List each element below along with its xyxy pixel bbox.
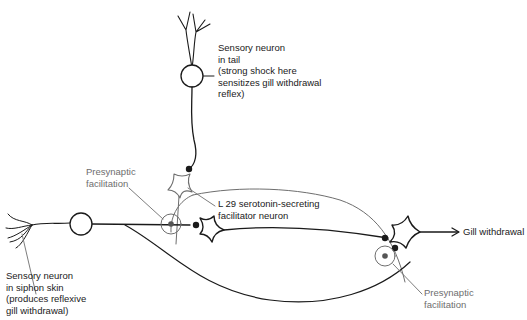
- tail-sensory-soma: [181, 65, 203, 87]
- interneuron-synapse-terminal: [193, 222, 199, 228]
- label-gill-withdrawal: Gill withdrawal: [463, 226, 524, 238]
- tail-sensory-dendrites: [178, 12, 210, 68]
- siphon-sensory-dendrites: [6, 214, 32, 248]
- siphon-sensory-branch-lower: [125, 225, 410, 302]
- motor-synapse-terminal-upper: [382, 235, 388, 241]
- label-presynaptic-facilitation-left: Presynaptic facilitation: [86, 166, 136, 189]
- tail-synapse-terminal: [186, 166, 192, 172]
- label-presynaptic-facilitation-right: Presynaptic facilitation: [424, 287, 474, 310]
- l29-branch-left: [171, 195, 193, 232]
- presyn-terminal-right: [382, 253, 388, 259]
- l29-facilitator-soma: [168, 174, 192, 198]
- siphon-sensory-process: [32, 223, 70, 225]
- l29-axon: [176, 196, 179, 244]
- presyn-terminal-left: [168, 221, 174, 227]
- presyn-left-leader: [129, 188, 163, 219]
- l29-label-leader: [188, 188, 215, 206]
- label-tail-sensory-neuron: Sensory neuron in tail (strong shock her…: [218, 42, 321, 100]
- siphon-sensory-axon: [92, 224, 190, 225]
- motor-neuron-soma: [390, 216, 420, 248]
- label-siphon-sensory-neuron: Sensory neuron in siphon skin (produces …: [6, 270, 86, 316]
- tail-sensory-axon: [188, 87, 196, 170]
- siphon-sensory-soma: [70, 213, 92, 235]
- label-l29-facilitator-neuron: L 29 serotonin-secreting facilitator neu…: [218, 198, 320, 221]
- interneuron-axon: [224, 228, 388, 238]
- presyn-right-leader: [393, 264, 422, 294]
